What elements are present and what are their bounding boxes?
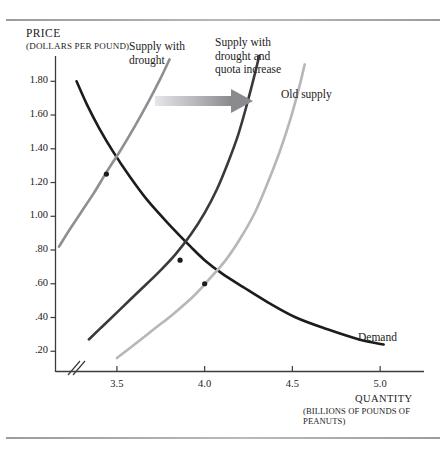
curve-label-demand: Demand: [358, 331, 397, 345]
y-axis-title: PRICE: [26, 27, 61, 41]
drought-quota-equilibrium: [177, 258, 182, 263]
shift-arrow-icon: [155, 89, 253, 113]
y-tick-label: .20: [10, 344, 48, 355]
y-tick-label: 1.40: [10, 142, 48, 153]
y-tick-label: 1.80: [10, 74, 48, 85]
x-axis-title: QUANTITY: [355, 393, 412, 405]
y-tick-label: 1.00: [10, 209, 48, 220]
x-tick-label: 4.0: [185, 378, 225, 389]
curve-label-supply-with-drought: Supply with drought: [129, 40, 185, 67]
drought-equilibrium: [104, 172, 109, 177]
y-axis-subtitle: (DOLLARS PER POUND): [26, 41, 129, 52]
y-tick-label: .40: [10, 311, 48, 322]
equilibrium-points-group: [104, 172, 207, 287]
x-axis-subtitle: (BILLIONS OF POUNDS OF PEANUTS): [303, 406, 446, 426]
figure-container: PRICE (DOLLARS PER POUND) QUANTITY (BILL…: [0, 0, 446, 449]
old-equilibrium: [202, 281, 207, 286]
x-tick-label: 4.5: [272, 378, 312, 389]
axis-break-marks: [68, 361, 85, 375]
y-tick-label: 1.60: [10, 108, 48, 119]
x-tick-label: 3.5: [97, 378, 137, 389]
curve-label-supply-with-drought-and-quota-increase: Supply with drought and quota increase: [215, 36, 281, 77]
curve-label-old-supply: Old supply: [281, 88, 332, 102]
x-tick-label: 5.0: [360, 378, 400, 389]
y-tick-label: .80: [10, 243, 48, 254]
y-tick-label: .60: [10, 277, 48, 288]
curve-demand: [77, 81, 384, 344]
y-tick-label: 1.20: [10, 176, 48, 187]
